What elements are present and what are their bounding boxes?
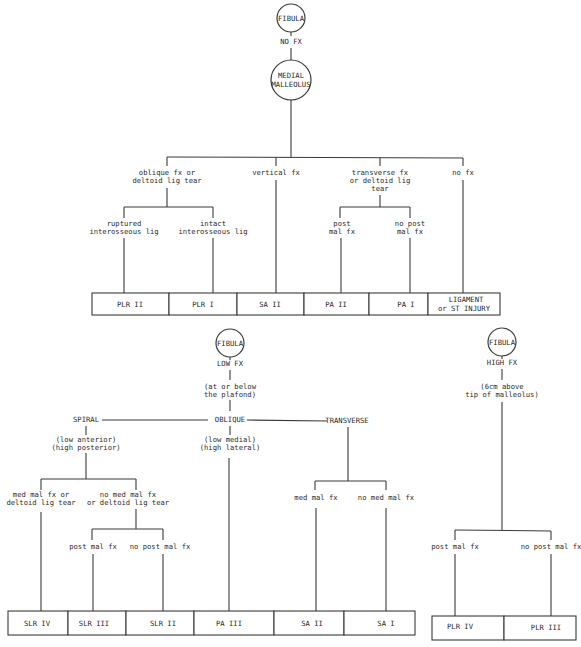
low-fx-tree: FIBULA LOW FX (at or below the plafond) … [6,329,415,635]
high-no-post-mal: no post mal fx [521,542,581,551]
sub-no-post-mal-line2: mal fx [397,227,424,236]
sub-intact-line2: interosseous lig [178,227,247,236]
low-outcome-row: SLR IV SLR III SLR II PA III SA II SA I [8,611,415,635]
high-fx-label: HIGH FX [487,358,518,367]
low-fx-note-line2: the plafond) [204,390,256,399]
low-fx-label: LOW FX [217,359,244,368]
type-oblique: OBLIQUE [215,415,245,424]
outcome-label: PLR IV [447,622,474,631]
fibula-node-low-label: FIBULA [217,339,244,348]
branch-bar [455,530,551,531]
type-spiral: SPIRAL [73,415,99,424]
outcome-label: SA II [259,300,281,309]
spiral-note-line2: (high posterior) [51,443,120,452]
medial-malleolus-label-line1: MEDIAL [278,71,304,80]
branch-vertical: vertical fx [252,168,300,177]
branch-oblique-line2: deltoid lig tear [132,176,202,185]
branch-bar [167,157,463,158]
outcome-label: PA I [397,300,414,309]
sub-ruptured-line2: interosseous lig [89,227,158,236]
fibula-node-high-label: FIBULA [489,338,516,347]
fracture-classification-diagram: FIBULA NO FX MEDIAL MALLEOLUS oblique fx… [0,0,581,647]
high-post-mal: post mal fx [431,542,479,551]
branch-no-fx: no fx [452,168,474,177]
type-bar [247,420,327,421]
transverse-no-med-mal: no med mal fx [358,493,415,502]
outcome-label: PLR III [531,623,561,632]
high-fx-tree: FIBULA HIGH FX (6cm above tip of malleol… [431,328,581,640]
spiral-med-mal-line2: deltoid lig tear [6,498,76,507]
outcome-label: SA I [377,619,394,628]
branch-transverse-line3: tear [371,184,389,193]
outcome-label: SLR II [150,619,176,628]
high-fx-note-line2: tip of malleolus) [465,390,539,399]
type-transverse: TRANSVERSE [325,416,368,425]
oblique-note-line2: (high lateral) [200,443,261,452]
top-tree: FIBULA NO FX MEDIAL MALLEOLUS oblique fx… [89,4,500,315]
outcome-label: LIGAMENT [449,295,484,304]
top-outcome-row: PLR II PLR I SA II PA II PA I LIGAMENT o… [92,293,500,315]
spiral-no-med-mal-line2: or deltoid lig tear [87,498,170,507]
outcome-label: PLR II [117,300,143,309]
outcome-label: or ST INJURY [438,304,491,313]
no-fx-label: NO FX [280,37,302,46]
transverse-med-mal: med mal fx [294,493,338,502]
outcome-label: PLR I [192,300,214,309]
high-outcome-row: PLR IV PLR III [432,616,576,640]
fibula-node-top-label: FIBULA [278,14,305,23]
medial-malleolus-label-line2: MALLEOLUS [272,80,311,89]
outcome-label: SLR III [79,619,109,628]
spiral-no-post-mal: no post mal fx [130,542,191,551]
sub-post-mal-line2: mal fx [329,227,356,236]
spiral-post-mal: post mal fx [69,542,117,551]
outcome-label: SA II [301,619,323,628]
outcome-label: SLR IV [24,619,51,628]
outcome-label: PA III [216,619,242,628]
outcome-label: PA II [325,300,347,309]
